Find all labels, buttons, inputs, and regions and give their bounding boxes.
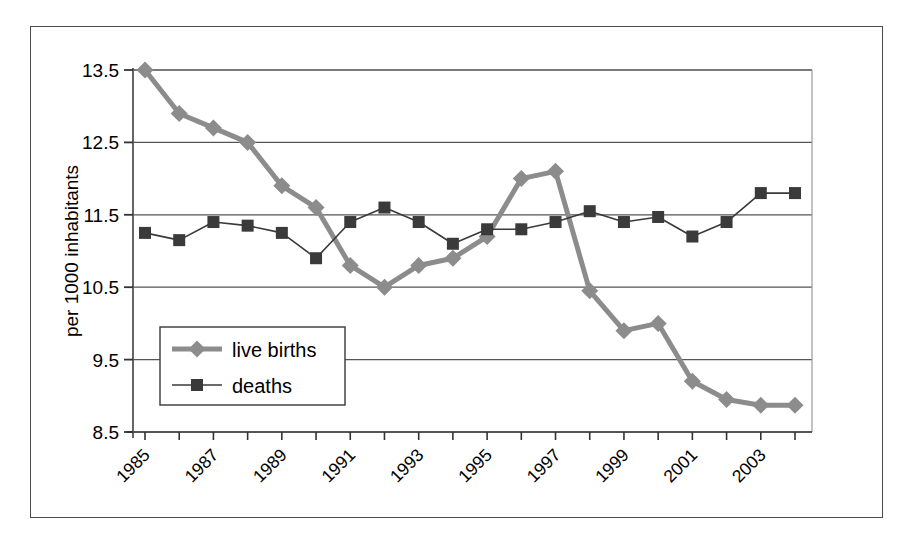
y-tick-label-1: 12.5 (82, 132, 119, 153)
data-point-deaths-2001 (686, 231, 698, 243)
legend-label-live-births: live births (232, 339, 316, 361)
x-tick-label-1991: 1991 (317, 445, 359, 487)
y-tick-label-0: 13.5 (82, 60, 119, 81)
x-tick-label-1985: 1985 (112, 445, 154, 487)
y-axis-title: per 1000 inhabitants (61, 165, 82, 337)
x-tick-label-1995: 1995 (454, 445, 496, 487)
data-point-deaths-1991 (344, 216, 356, 228)
x-tick-label-1997: 1997 (523, 445, 565, 487)
x-tick-label-1989: 1989 (249, 445, 291, 487)
legend-label-deaths: deaths (232, 375, 292, 397)
data-point-deaths-1988 (242, 220, 254, 232)
data-point-deaths-1996 (515, 223, 527, 235)
data-point-deaths-1990 (310, 252, 322, 264)
y-tick-label-5: 8.5 (93, 422, 119, 443)
data-point-deaths-1987 (207, 216, 219, 228)
data-point-deaths-1997 (550, 216, 562, 228)
data-point-deaths-1994 (447, 238, 459, 250)
x-tick-label-1987: 1987 (181, 445, 223, 487)
data-point-deaths-1993 (413, 216, 425, 228)
data-point-deaths-2003 (755, 187, 767, 199)
y-tick-label-2: 11.5 (83, 205, 119, 226)
data-point-deaths-1998 (584, 205, 596, 217)
x-tick-label-1999: 1999 (591, 445, 633, 487)
data-point-deaths-1989 (276, 227, 288, 239)
x-tick-label-1993: 1993 (386, 445, 428, 487)
data-point-deaths-1985 (139, 227, 151, 239)
data-point-deaths-2000 (652, 211, 664, 223)
y-tick-label-3: 10.5 (82, 277, 119, 298)
data-point-deaths-2002 (721, 216, 733, 228)
legend-marker-deaths (191, 379, 203, 391)
chart-page: 13.512.511.510.59.58.5per 1000 inhabitan… (0, 0, 913, 545)
data-point-deaths-1992 (378, 202, 390, 214)
data-point-deaths-2004 (789, 187, 801, 199)
data-point-deaths-1995 (481, 223, 493, 235)
x-tick-label-2003: 2003 (728, 445, 770, 487)
data-point-deaths-1986 (173, 234, 185, 246)
data-point-deaths-1999 (618, 216, 630, 228)
line-chart: 13.512.511.510.59.58.5per 1000 inhabitan… (0, 0, 913, 545)
x-tick-label-2001: 2001 (660, 445, 702, 487)
y-tick-label-4: 9.5 (93, 350, 119, 371)
